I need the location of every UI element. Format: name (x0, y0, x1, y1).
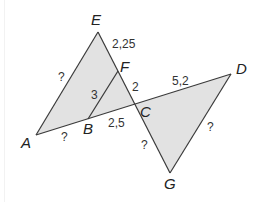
measure-label-cg: ? (141, 138, 148, 152)
vertex-label-d: D (236, 60, 247, 77)
vertex-label-b: B (83, 120, 93, 137)
vertex-label-f: F (120, 58, 130, 75)
vertex-label-g: G (164, 175, 176, 192)
measure-label-dg: ? (207, 120, 214, 134)
measure-label-ef: 2,25 (112, 37, 136, 51)
measure-label-ab: ? (61, 130, 68, 144)
measure-label-cd: 5,2 (172, 74, 189, 88)
measure-label-bc: 2,5 (108, 116, 125, 130)
vertex-label-e: E (91, 11, 102, 28)
measure-label-fc: 2 (132, 80, 139, 94)
vertex-label-c: C (140, 103, 151, 120)
vertex-label-a: A (20, 134, 31, 151)
geometry-diagram: E F D C B A G 2,25 2 3 2,5 5,2 ? ? ? ? (0, 0, 261, 202)
measure-label-bf: 3 (91, 88, 98, 102)
measure-label-ae: ? (58, 70, 65, 84)
